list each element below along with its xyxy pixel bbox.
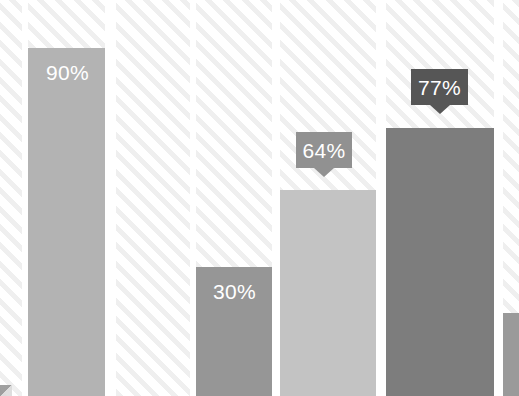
callout-64-pointer-icon (314, 168, 334, 177)
callout-64-box: 64% (296, 132, 352, 168)
callout-77-label: 77% (418, 77, 461, 98)
callout-77[interactable]: 77% (411, 69, 468, 105)
callout-77-box: 77% (411, 69, 468, 105)
corner-sliver (0, 385, 12, 396)
bar-6[interactable] (503, 313, 519, 396)
hatch-band-0 (0, 0, 22, 396)
callout-77-pointer-icon (430, 105, 450, 114)
callout-64-label: 64% (303, 140, 346, 161)
hatch-band-2 (116, 0, 190, 396)
bar-1-value-label: 90% (46, 62, 89, 83)
callout-64[interactable]: 64% (296, 132, 352, 168)
bar-3-value-label: 30% (213, 281, 256, 302)
bar-5[interactable] (386, 128, 494, 396)
bar-1[interactable] (28, 48, 105, 396)
bar-chart: 90% 30% 64% 77% (0, 0, 519, 396)
bar-4[interactable] (280, 190, 376, 396)
